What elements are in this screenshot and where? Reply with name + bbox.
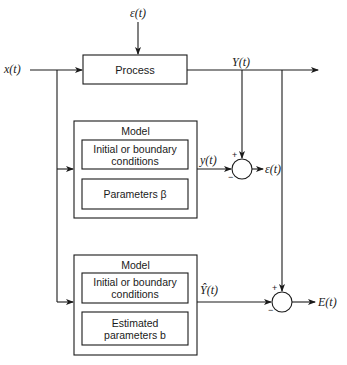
junction2-minus-sign: −: [268, 305, 273, 315]
summing-junction-2: [272, 292, 292, 312]
model2-estimated-parameters-block: Estimatedparameters b: [82, 312, 188, 345]
junction1-plus-sign: +: [232, 150, 237, 160]
junction2-plus-sign: +: [272, 283, 277, 293]
model1-conditions-block: Initial or boundaryconditions: [82, 140, 188, 169]
process-output-label: Y(t): [232, 55, 250, 70]
process-label: Process: [83, 55, 187, 84]
input-signal-label: x(t): [4, 62, 21, 77]
model1-title: Model: [74, 124, 197, 138]
junction1-minus-sign: −: [228, 172, 233, 182]
model2-output-label: Ŷ(t): [200, 283, 218, 298]
model2-title: Model: [74, 258, 197, 272]
model1-parameters-block: Parameters β: [82, 179, 188, 209]
model2-conditions-block: Initial or boundaryconditions: [82, 273, 188, 303]
error2-label: E(t): [318, 295, 337, 310]
error1-label: ε(t): [265, 162, 281, 177]
disturbance-label: ε(t): [130, 6, 146, 21]
model1-output-label: y(t): [200, 153, 217, 168]
summing-junction-1: [232, 159, 252, 179]
